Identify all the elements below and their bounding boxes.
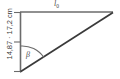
label-angle-beta: β <box>26 51 30 59</box>
triangle-side-hypotenuse <box>20 13 113 73</box>
triangle-drawing <box>0 0 120 79</box>
angle-arc-beta <box>21 46 44 57</box>
label-top-side: l0 <box>54 0 59 9</box>
label-top-side-subscript: 0 <box>56 3 59 9</box>
geometry-figure: l0 14,87 · 17,2 cm β <box>0 0 120 79</box>
label-left-side: 14,87 · 17,2 cm <box>6 0 14 68</box>
